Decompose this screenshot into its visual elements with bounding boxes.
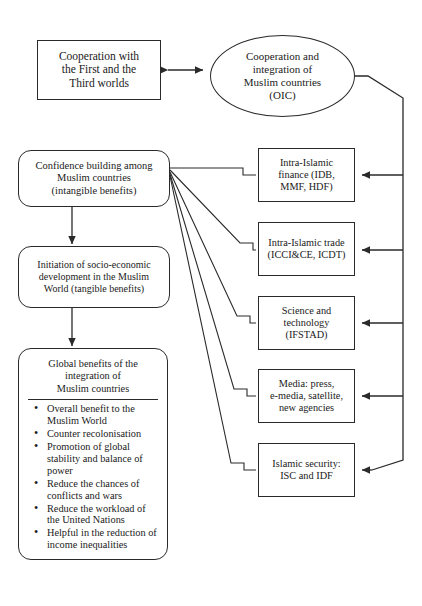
node-line: Muslim countries <box>26 383 160 395</box>
node-line: e-media, satellite, <box>270 390 343 402</box>
node-line: Cooperation and <box>246 50 319 63</box>
node-line: (intangible benefits) <box>52 185 137 197</box>
node-line: (ICCI&CE, ICDT) <box>268 249 346 261</box>
list-item: Helpful in the reduction of income inequ… <box>32 527 160 551</box>
node-line: (IFSTAD) <box>285 329 327 341</box>
node-line: the First and the <box>62 63 136 77</box>
node-initiation-socio-economic[interactable]: Initiation of socio-economic development… <box>18 246 170 308</box>
node-line: new agencies <box>279 402 334 414</box>
list-item: Promotion of global stability and balanc… <box>32 441 160 477</box>
node-line: (OIC) <box>269 89 295 102</box>
node-line: Islamic security: <box>272 458 340 470</box>
node-line: Science and <box>282 305 331 317</box>
node-line: integration of <box>26 370 160 382</box>
node-line: MMF, HDF) <box>280 181 332 193</box>
node-science-technology[interactable]: Science and technology (IFSTAD) <box>258 296 355 350</box>
node-line: Intra-Islamic trade <box>268 237 344 249</box>
node-global-benefits[interactable]: Global benefits of the integration of Mu… <box>18 348 168 560</box>
node-intra-islamic-finance[interactable]: Intra-Islamic finance (IDB, MMF, HDF) <box>258 148 355 202</box>
node-line: World (tangible benefits) <box>44 283 144 295</box>
node-line: Confidence building among <box>35 160 152 172</box>
node-line: Intra-Islamic <box>280 157 333 169</box>
node-line: Media: press, <box>279 378 334 390</box>
node-line: Cooperation with <box>59 50 139 64</box>
node-line: ISC and IDF <box>280 470 333 482</box>
node-line: Initiation of socio-economic <box>37 259 150 271</box>
connector-fan <box>170 168 256 470</box>
list-item: Reduce the chances of conflicts and wars <box>32 478 160 502</box>
node-oic-ellipse[interactable]: Cooperation and integration of Muslim co… <box>210 35 355 117</box>
node-media[interactable]: Media: press, e-media, satellite, new ag… <box>258 369 355 423</box>
global-benefits-list: Overall benefit to the Muslim World Coun… <box>26 403 160 552</box>
title-divider <box>28 399 158 400</box>
node-cooperation-first-third-worlds[interactable]: Cooperation with the First and the Third… <box>37 40 161 100</box>
list-item: Overall benefit to the Muslim World <box>32 403 160 427</box>
node-line: Muslim countries <box>244 76 321 89</box>
node-confidence-building[interactable]: Confidence building among Muslim countri… <box>18 150 170 207</box>
node-islamic-security[interactable]: Islamic security: ISC and IDF <box>258 443 355 497</box>
node-line: Third worlds <box>69 77 129 91</box>
node-line: integration of <box>253 63 313 76</box>
node-line: Global benefits of the <box>26 358 160 370</box>
node-line: technology <box>284 317 330 329</box>
connector-oic-bus <box>353 76 403 470</box>
global-benefits-title: Global benefits of the integration of Mu… <box>26 358 160 395</box>
node-line: development in the Muslim <box>39 271 149 283</box>
node-line: finance (IDB, <box>278 169 335 181</box>
node-line: Muslim countries <box>57 172 131 184</box>
list-item: Counter recolonisation <box>32 428 160 440</box>
diagram-canvas: Cooperation with the First and the Third… <box>0 0 422 606</box>
node-intra-islamic-trade[interactable]: Intra-Islamic trade (ICCI&CE, ICDT) <box>258 222 355 276</box>
list-item: Reduce the workload of the United Nation… <box>32 503 160 527</box>
